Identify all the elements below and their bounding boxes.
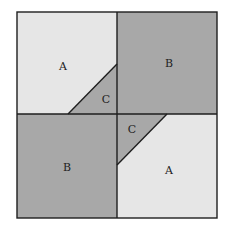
label-center-lower: C <box>128 123 136 136</box>
quadrant-diagram: A B C C B A <box>0 0 229 227</box>
label-bottom-right: A <box>164 164 174 177</box>
label-top-left: A <box>58 60 68 73</box>
label-top-right: B <box>165 57 173 70</box>
label-center-upper: C <box>102 93 110 106</box>
label-bottom-left: B <box>63 161 71 174</box>
